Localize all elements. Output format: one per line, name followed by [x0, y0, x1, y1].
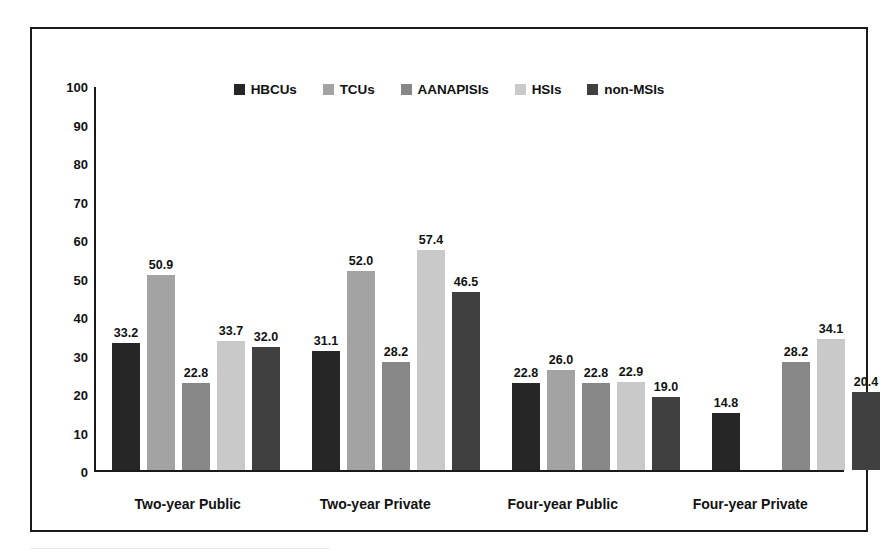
bar[interactable]: 50.9: [147, 275, 175, 470]
bar-slot: 46.5: [452, 87, 480, 470]
y-axis-tick-label: 0: [81, 465, 88, 480]
x-axis-line: [94, 470, 844, 472]
y-axis-tick-label: 100: [66, 80, 88, 95]
bar-value-label: 57.4: [419, 233, 443, 247]
bar-value-label: 26.0: [549, 353, 573, 367]
bar-value-label: 31.1: [314, 334, 338, 348]
plot-area: 0102030405060708090100 33.250.922.833.73…: [94, 87, 844, 472]
bar-slot: 50.9: [147, 87, 175, 470]
bar-slot: 33.2: [112, 87, 140, 470]
bar[interactable]: 22.8: [512, 383, 540, 470]
bar-slot: 22.8: [582, 87, 610, 470]
bar-value-label: 14.8: [714, 396, 738, 410]
bar-slot: 14.8: [712, 87, 740, 470]
bar-value-label: 22.8: [584, 366, 608, 380]
bar-slot: 32.0: [252, 87, 280, 470]
bar-value-label: 22.8: [184, 366, 208, 380]
bar-group: 22.826.022.822.919.0: [496, 87, 696, 470]
bar-slot: 26.0: [547, 87, 575, 470]
bar-slot: 28.2: [382, 87, 410, 470]
chart-figure: HBCUsTCUsAANAPISIsHSIsnon-MSIs 010203040…: [30, 27, 868, 532]
bar[interactable]: 46.5: [452, 292, 480, 470]
bar-slot: 57.4: [417, 87, 445, 470]
bar-slot: 31.1: [312, 87, 340, 470]
y-axis-tick-label: 30: [74, 349, 88, 364]
bar-value-label: 28.2: [784, 345, 808, 359]
bar[interactable]: 22.9: [617, 382, 645, 470]
bar-slot: 22.8: [512, 87, 540, 470]
y-axis-tick-label: 60: [74, 234, 88, 249]
bar-value-label: 28.2: [384, 345, 408, 359]
bar[interactable]: 32.0: [252, 347, 280, 470]
bar[interactable]: 26.0: [547, 370, 575, 470]
bar-value-label: 50.9: [149, 258, 173, 272]
x-axis-category-label: Four-year Public: [469, 496, 657, 512]
bar-value-label: 52.0: [349, 254, 373, 268]
y-axis-tick-label: 70: [74, 195, 88, 210]
y-axis-tick-label: 80: [74, 157, 88, 172]
bar[interactable]: 28.2: [382, 362, 410, 470]
bar-group: 33.250.922.833.732.0: [96, 87, 296, 470]
bar-slot: 33.7: [217, 87, 245, 470]
bar-value-label: 22.8: [514, 366, 538, 380]
scan-artifact: [30, 548, 330, 549]
bar-value-label: 34.1: [819, 322, 843, 336]
bar-value-label: 33.7: [219, 324, 243, 338]
bar-slot: 22.8: [182, 87, 210, 470]
x-axis-category-labels: Two-year PublicTwo-year PrivateFour-year…: [94, 496, 844, 512]
bar-value-label: 32.0: [254, 330, 278, 344]
bar[interactable]: 33.7: [217, 341, 245, 470]
bar[interactable]: 34.1: [817, 339, 845, 470]
bar[interactable]: 57.4: [417, 250, 445, 470]
x-axis-category-label: Two-year Public: [94, 496, 282, 512]
bar-slot: 34.1: [817, 87, 845, 470]
bar-slot: 20.4: [852, 87, 880, 470]
bar[interactable]: 22.8: [582, 383, 610, 470]
bar-groups: 33.250.922.833.732.031.152.028.257.446.5…: [96, 87, 844, 470]
y-axis-tick-label: 50: [74, 272, 88, 287]
x-axis-category-label: Four-year Private: [657, 496, 845, 512]
bar[interactable]: 19.0: [652, 397, 680, 470]
y-axis-tick-labels: 0102030405060708090100: [50, 87, 88, 472]
bar-slot: 52.0: [347, 87, 375, 470]
bar-slot: [747, 87, 775, 470]
bar[interactable]: 20.4: [852, 392, 880, 470]
y-axis-tick-label: 20: [74, 388, 88, 403]
y-axis-tick-label: 40: [74, 311, 88, 326]
x-axis-category-label: Two-year Private: [282, 496, 470, 512]
bar-value-label: 33.2: [114, 326, 138, 340]
y-axis-tick-label: 90: [74, 118, 88, 133]
bar-slot: 28.2: [782, 87, 810, 470]
bar-slot: 22.9: [617, 87, 645, 470]
bar-group: 31.152.028.257.446.5: [296, 87, 496, 470]
bar[interactable]: 22.8: [182, 383, 210, 470]
bar-value-label: 22.9: [619, 365, 643, 379]
y-axis-tick-label: 10: [74, 426, 88, 441]
bar[interactable]: 52.0: [347, 271, 375, 470]
bar[interactable]: 28.2: [782, 362, 810, 470]
bar[interactable]: 33.2: [112, 343, 140, 470]
bar-group: 14.828.234.120.4: [696, 87, 896, 470]
bar[interactable]: 14.8: [712, 413, 740, 470]
bar-slot: 19.0: [652, 87, 680, 470]
bar-value-label: 19.0: [654, 380, 678, 394]
bar-value-label: 20.4: [854, 375, 878, 389]
bar[interactable]: 31.1: [312, 351, 340, 470]
bar-value-label: 46.5: [454, 275, 478, 289]
